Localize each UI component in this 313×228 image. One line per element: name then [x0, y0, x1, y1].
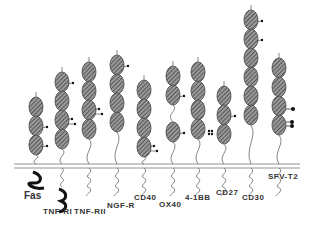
crd-domain — [55, 110, 69, 130]
crd-domain — [166, 122, 180, 142]
label-tnf-ri: TNF-RI — [43, 207, 72, 216]
crd-domain — [29, 97, 43, 117]
label-cd30: CD30 — [242, 193, 264, 202]
crd-domain — [137, 99, 151, 119]
crd-domain — [137, 118, 151, 138]
crd-domain — [191, 100, 205, 120]
crd-domain — [82, 62, 96, 82]
crd-domain — [82, 100, 96, 120]
crd-domain — [191, 62, 205, 82]
receptor-fas — [29, 92, 48, 188]
receptor-cd40 — [137, 75, 158, 196]
receptor-ngf-r — [110, 50, 129, 196]
receptor-tnf-rii — [82, 57, 103, 196]
crd-domain — [29, 135, 43, 155]
receptor-cd30 — [244, 5, 263, 196]
crd-domain — [110, 112, 124, 132]
crd-domain — [110, 74, 124, 94]
crd-domain — [272, 115, 286, 135]
receptor-cd27 — [217, 81, 236, 196]
crd-domain — [244, 86, 258, 106]
crd-domain — [55, 72, 69, 92]
receptor-4-1bb — [191, 57, 213, 196]
crd-domain — [166, 85, 180, 105]
label-cd27: CD27 — [216, 188, 238, 197]
crd-domain — [82, 119, 96, 139]
crd-domain — [217, 124, 231, 144]
crd-domain — [217, 86, 231, 106]
crd-domain — [110, 93, 124, 113]
crd-domain — [191, 119, 205, 139]
crd-domain — [166, 66, 180, 86]
crd-domain — [137, 137, 151, 157]
crd-domain — [244, 105, 258, 125]
crd-domain — [244, 29, 258, 49]
crd-domain — [244, 10, 258, 30]
crd-domain — [272, 96, 286, 116]
label-cd40: CD40 — [134, 193, 156, 202]
crd-domain — [244, 67, 258, 87]
receptor-diagram — [0, 0, 313, 228]
crd-domain — [272, 58, 286, 78]
cell-membrane — [14, 164, 300, 168]
crd-domain — [217, 105, 231, 125]
label-sfv-t2: SFV-T2 — [268, 172, 298, 181]
crd-domain — [191, 81, 205, 101]
crd-domain — [110, 55, 124, 75]
label-4-1bb: 4-1BB — [185, 193, 211, 202]
crd-domain — [244, 48, 258, 68]
label-fas: Fas — [24, 190, 41, 201]
label-ngf-r: NGF-R — [107, 201, 135, 210]
label-tnf-rii: TNF-RII — [74, 207, 106, 216]
crd-domain — [55, 91, 69, 111]
crd-domain — [137, 80, 151, 100]
crd-domain — [55, 129, 69, 149]
receptor-tnf-ri — [55, 67, 76, 212]
label-ox40: OX40 — [159, 200, 181, 209]
crd-domain — [272, 77, 286, 97]
receptor-ox40 — [166, 61, 185, 196]
crd-domain — [29, 116, 43, 136]
crd-domain — [82, 81, 96, 101]
